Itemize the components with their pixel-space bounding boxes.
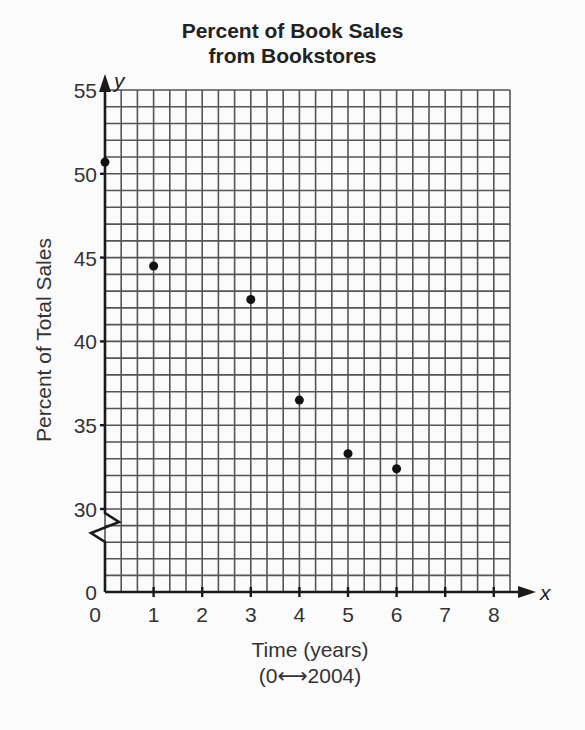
x-tick-label: 8 [488, 603, 500, 626]
y-axis-letter: y [112, 69, 126, 92]
x-tick-label: 3 [245, 603, 257, 626]
axes [91, 84, 528, 592]
x-tick-label: 5 [342, 603, 354, 626]
x-axis-letter: x [539, 581, 552, 604]
data-point [101, 158, 110, 167]
x-tick-label: 2 [196, 603, 208, 626]
data-point [295, 396, 304, 405]
y-tick-label: 55 [74, 79, 97, 102]
x-tick-label: 7 [439, 603, 451, 626]
grid [105, 90, 510, 592]
y-tick-label: 40 [74, 330, 97, 353]
x-axis-arrow-icon [518, 586, 536, 598]
scatter-plot: yx0303540455055012345678 [0, 0, 585, 730]
y-tick-label: 30 [74, 498, 97, 521]
x-tick-label: 0 [89, 603, 101, 626]
x-tick-label: 4 [294, 603, 306, 626]
y-tick-label: 35 [74, 414, 97, 437]
x-tick-label: 6 [391, 603, 403, 626]
data-point [344, 449, 353, 458]
data-point [149, 261, 158, 270]
data-point [246, 295, 255, 304]
y-tick-label: 0 [85, 581, 97, 604]
y-tick-label: 45 [74, 247, 97, 270]
x-tick-label: 1 [148, 603, 160, 626]
y-tick-label: 50 [74, 163, 97, 186]
data-point [392, 464, 401, 473]
